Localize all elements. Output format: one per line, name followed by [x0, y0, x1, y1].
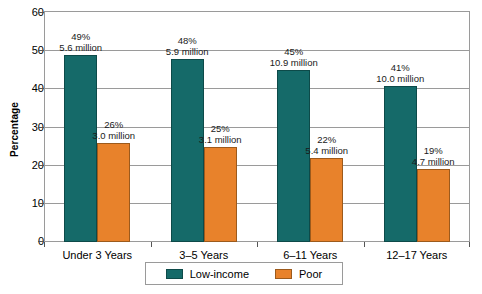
x-tick-label: Under 3 Years — [44, 242, 151, 264]
x-tick-mark — [151, 242, 152, 247]
bar-poor[interactable]: 19%4.7 million — [417, 169, 450, 242]
bar-percent-label: 48% — [166, 35, 209, 46]
bar-group: 48%5.9 million25%3.1 million — [151, 11, 258, 242]
bar-pair: 41%10.0 million19%4.7 million — [384, 11, 450, 242]
bar-percent-label: 22% — [305, 134, 348, 145]
bar-pair: 45%10.9 million22%5.4 million — [277, 11, 343, 242]
bar-value-label: 48%5.9 million — [166, 35, 209, 57]
legend-swatch-poor — [275, 269, 292, 279]
bar-percent-label: 49% — [59, 31, 102, 42]
bar-value-label: 45%10.9 million — [270, 46, 318, 68]
bar-value-label: 22%5.4 million — [305, 134, 348, 156]
bar-count-label: 3.0 million — [92, 130, 135, 141]
x-tick-mark — [364, 242, 365, 247]
bar-count-label: 5.9 million — [166, 46, 209, 57]
bar-value-label: 26%3.0 million — [92, 119, 135, 141]
bar-group: 41%10.0 million19%4.7 million — [364, 11, 471, 242]
bar-value-label: 19%4.7 million — [412, 145, 455, 167]
legend-item-low-income: Low-income — [166, 268, 249, 280]
bar-poor[interactable]: 25%3.1 million — [204, 147, 237, 242]
bar-pair: 49%5.6 million26%3.0 million — [64, 11, 130, 242]
bar-chart: Percentage 0102030405060 49%5.6 million2… — [0, 0, 482, 294]
bar-poor[interactable]: 22%5.4 million — [310, 158, 343, 242]
bar-count-label: 3.1 million — [199, 134, 242, 145]
bar-count-label: 4.7 million — [412, 156, 455, 167]
bar-group: 49%5.6 million26%3.0 million — [44, 11, 151, 242]
bar-count-label: 10.9 million — [270, 57, 318, 68]
legend-label-low-income: Low-income — [190, 268, 249, 280]
bar-low-income[interactable]: 49%5.6 million — [64, 55, 97, 242]
bar-percent-label: 45% — [270, 46, 318, 57]
bar-low-income[interactable]: 45%10.9 million — [277, 70, 310, 242]
bar-value-label: 49%5.6 million — [59, 31, 102, 53]
bar-low-income[interactable]: 48%5.9 million — [171, 59, 204, 242]
x-tick-label: 3–5 Years — [151, 242, 258, 264]
bar-poor[interactable]: 26%3.0 million — [97, 143, 130, 242]
bar-value-label: 25%3.1 million — [199, 123, 242, 145]
legend-item-poor: Poor — [275, 268, 322, 280]
x-tick-mark — [44, 242, 45, 247]
bar-count-label: 5.6 million — [59, 42, 102, 53]
legend: Low-income Poor — [145, 262, 343, 285]
x-tick-label: 6–11 Years — [257, 242, 364, 264]
y-axis: 0102030405060 — [0, 11, 44, 242]
bar-count-label: 5.4 million — [305, 145, 348, 156]
bar-percent-label: 25% — [199, 123, 242, 134]
bar-pair: 48%5.9 million25%3.1 million — [171, 11, 237, 242]
legend-swatch-low-income — [166, 269, 183, 279]
x-tick-mark — [469, 242, 470, 247]
x-tick-label: 12–17 Years — [364, 242, 471, 264]
bar-percent-label: 26% — [92, 119, 135, 130]
bar-count-label: 10.0 million — [376, 73, 424, 84]
bar-value-label: 41%10.0 million — [376, 62, 424, 84]
legend-label-poor: Poor — [299, 268, 322, 280]
x-axis: Under 3 Years3–5 Years6–11 Years12–17 Ye… — [44, 242, 470, 264]
bar-percent-label: 41% — [376, 62, 424, 73]
bar-group: 45%10.9 million22%5.4 million — [257, 11, 364, 242]
bar-percent-label: 19% — [412, 145, 455, 156]
x-tick-mark — [257, 242, 258, 247]
bar-groups: 49%5.6 million26%3.0 million48%5.9 milli… — [44, 11, 470, 242]
